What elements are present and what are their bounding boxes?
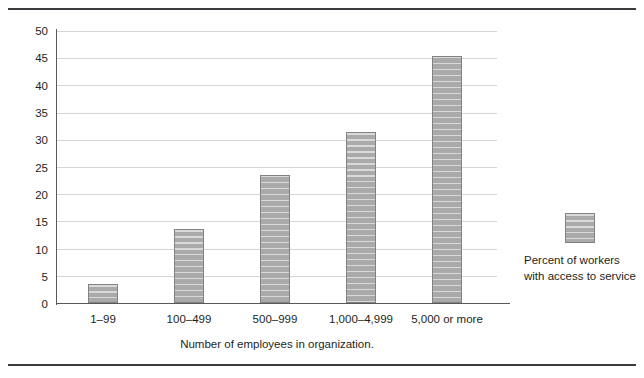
gridline-45 — [57, 58, 497, 59]
y-tick-label-0: 0 — [0, 298, 48, 310]
y-tick-label-50: 50 — [0, 25, 48, 37]
striped-gray-swatch-icon — [565, 213, 595, 243]
y-tick-label-5: 5 — [0, 271, 48, 283]
legend-label: Percent of workers with access to servic… — [524, 252, 636, 284]
y-tick-label-10: 10 — [0, 244, 48, 256]
x-tick-label-5000-or-more: 5,000 or more — [411, 313, 483, 325]
x-axis-tick-labels: 1–99 100–499 500–999 1,000–4,999 5,000 o… — [57, 313, 497, 333]
bar-100-499[interactable] — [174, 229, 204, 304]
y-tick-label-15: 15 — [0, 216, 48, 228]
y-tick-label-20: 20 — [0, 189, 48, 201]
x-axis-title: Number of employees in organization. — [57, 338, 497, 350]
figure-container: 50 45 40 35 30 25 20 15 10 5 0 1–99 100–… — [0, 0, 644, 378]
legend: Percent of workers with access to servic… — [524, 213, 636, 284]
y-tick-label-30: 30 — [0, 134, 48, 146]
top-rule — [8, 8, 636, 10]
bar-5000-or-more[interactable] — [432, 56, 462, 304]
plot-area — [57, 31, 497, 303]
gridline-40 — [57, 85, 497, 86]
y-tick-label-40: 40 — [0, 80, 48, 92]
y-tick-label-35: 35 — [0, 107, 48, 119]
x-tick-label-1000-4999: 1,000–4,999 — [329, 313, 393, 325]
bar-500-999[interactable] — [260, 175, 290, 303]
y-tick-label-25: 25 — [0, 162, 48, 174]
bar-1000-4999[interactable] — [346, 132, 376, 303]
gridline-35 — [57, 113, 497, 114]
x-axis-line — [57, 303, 510, 304]
x-tick-label-100-499: 100–499 — [167, 313, 212, 325]
legend-label-line-2: with access to service — [524, 268, 636, 284]
x-tick-label-500-999: 500–999 — [253, 313, 298, 325]
legend-label-line-1: Percent of workers — [524, 252, 636, 268]
gridline-50 — [57, 31, 497, 32]
y-tick-label-45: 45 — [0, 52, 48, 64]
y-axis-tick-labels: 50 45 40 35 30 25 20 15 10 5 0 — [0, 0, 50, 378]
bottom-rule — [8, 364, 636, 366]
gridline-30 — [57, 140, 497, 141]
gridline-25 — [57, 167, 497, 168]
bar-1-99[interactable] — [88, 284, 118, 303]
x-tick-label-1-99: 1–99 — [90, 313, 116, 325]
